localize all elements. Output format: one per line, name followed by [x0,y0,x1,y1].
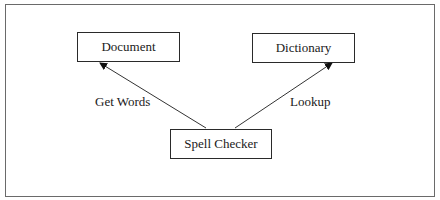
node-dictionary: Dictionary [252,33,355,63]
edges-layer [0,0,440,200]
edge-label-get-words: Get Words [95,94,150,110]
node-document-label: Document [101,39,155,55]
edge-label-lookup: Lookup [290,94,330,110]
node-spell-checker: Spell Checker [170,129,272,159]
node-spell-checker-label: Spell Checker [184,136,257,152]
node-dictionary-label: Dictionary [276,40,332,56]
node-document: Document [77,32,180,62]
